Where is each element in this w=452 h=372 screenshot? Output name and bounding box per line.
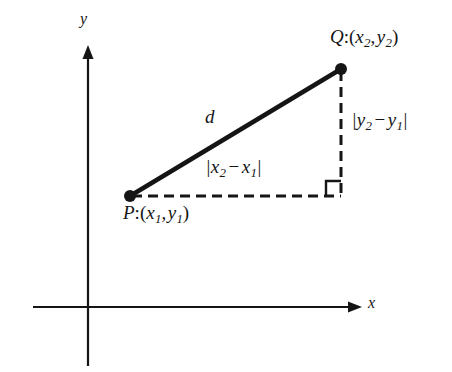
dy-var-a: y bbox=[357, 109, 365, 130]
figure-canvas bbox=[0, 0, 452, 372]
point-q-x-var: x bbox=[355, 26, 363, 47]
x-axis-label: x bbox=[368, 295, 375, 311]
point-p-close-paren: ) bbox=[183, 202, 189, 223]
dy-minus-sign: − bbox=[372, 109, 388, 130]
dx-var-a: x bbox=[211, 156, 219, 177]
dx-subscript-b: 1 bbox=[250, 165, 257, 180]
point-p-label: P:(x1,y1) bbox=[123, 203, 189, 226]
dx-minus-sign: − bbox=[226, 156, 242, 177]
right-angle-marker bbox=[326, 181, 341, 196]
dy-subscript-a: 2 bbox=[365, 118, 372, 133]
point-p-name: P bbox=[123, 202, 135, 223]
dx-subscript-a: 2 bbox=[219, 165, 226, 180]
point-p-y-subscript: 1 bbox=[176, 211, 183, 226]
dy-close-bar: | bbox=[403, 109, 408, 130]
dx-close-bar: | bbox=[257, 156, 262, 177]
x-axis-arrowhead bbox=[348, 302, 362, 313]
distance-label: d bbox=[205, 107, 215, 126]
point-q-name: Q bbox=[330, 26, 344, 47]
dy-var-b: y bbox=[388, 109, 396, 130]
distance-formula-figure: y x Q:(x2,y2) P:(x1,y1) d |x2−x1| |y2−y1… bbox=[0, 0, 452, 372]
dy-subscript-b: 1 bbox=[396, 118, 403, 133]
point-q-x-subscript: 2 bbox=[364, 35, 371, 50]
axes-group bbox=[33, 45, 362, 366]
horizontal-leg-label: |x2−x1| bbox=[206, 157, 262, 180]
point-q-y-subscript: 2 bbox=[385, 35, 392, 50]
y-axis-label: y bbox=[80, 11, 87, 27]
y-axis-arrowhead bbox=[83, 45, 94, 59]
point-p-marker bbox=[124, 190, 136, 202]
point-q-close-paren: ) bbox=[392, 26, 398, 47]
point-p-x-var: x bbox=[146, 202, 154, 223]
point-q-label: Q:(x2,y2) bbox=[330, 27, 398, 50]
point-q-y-var: y bbox=[377, 26, 385, 47]
dx-var-b: x bbox=[242, 156, 250, 177]
point-q-marker bbox=[335, 63, 347, 75]
point-p-y-var: y bbox=[168, 202, 176, 223]
vertical-leg-label: |y2−y1| bbox=[352, 110, 408, 133]
